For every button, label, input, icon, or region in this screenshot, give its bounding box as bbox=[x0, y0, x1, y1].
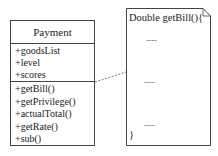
operation: +actualTotal() bbox=[15, 108, 94, 121]
note-shape bbox=[127, 9, 211, 146]
note-ellipsis: ...... bbox=[146, 33, 157, 43]
operation: +getRate() bbox=[15, 121, 94, 134]
operation: +getPrivilege() bbox=[15, 96, 94, 109]
class-operations: +getBill() +getPrivilege() +actualTotal(… bbox=[11, 82, 94, 146]
class-name: Payment bbox=[11, 21, 94, 44]
attribute: +goodsList bbox=[15, 45, 94, 57]
class-attributes: +goodsList +level +scores bbox=[11, 44, 94, 82]
note-closing-brace: } bbox=[129, 129, 134, 140]
note-anchor-dashed-line bbox=[95, 72, 126, 82]
note-ellipsis: ...... bbox=[144, 118, 155, 128]
note-header: Double getBill(){ bbox=[129, 12, 203, 23]
note-ellipsis: ...... bbox=[144, 75, 155, 85]
operation: +sub() bbox=[15, 133, 94, 146]
operation: +getBill() bbox=[15, 83, 94, 96]
attribute: +level bbox=[15, 57, 94, 69]
class-box-payment: Payment +goodsList +level +scores +getBi… bbox=[10, 20, 95, 146]
attribute: +scores bbox=[15, 69, 94, 81]
